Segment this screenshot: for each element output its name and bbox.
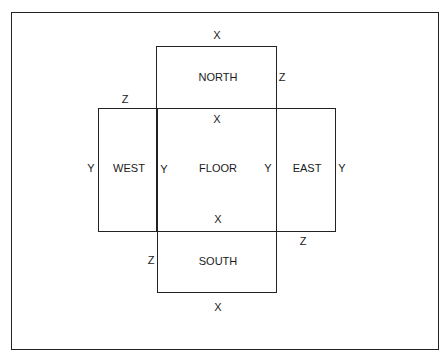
dim-east-right: Y [338, 162, 345, 174]
west-label: WEST [113, 162, 145, 174]
south-label: SOUTH [199, 255, 238, 267]
dim-floor-right: Y [264, 162, 271, 174]
dim-west-top: Z [122, 93, 129, 105]
floor-label: FLOOR [199, 162, 237, 174]
dim-north-right: Z [279, 71, 286, 83]
east-label: EAST [293, 162, 322, 174]
dim-west-left: Y [87, 162, 94, 174]
dim-east-bottom: Z [300, 235, 307, 247]
dim-floor-bottom: X [214, 213, 221, 225]
dim-floor-left: Y [160, 163, 167, 175]
dim-south-left: Z [148, 254, 155, 266]
dim-north-top: X [213, 29, 220, 41]
dim-floor-top: X [213, 113, 220, 125]
north-label: NORTH [199, 71, 238, 83]
dim-south-bottom: X [214, 301, 221, 313]
